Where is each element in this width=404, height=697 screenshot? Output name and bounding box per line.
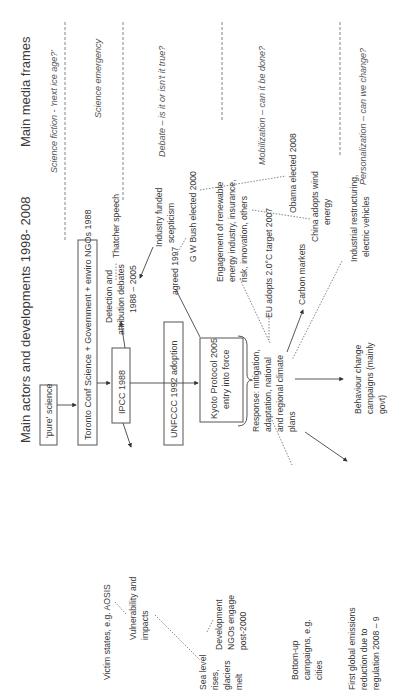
frame-science-emergency: Science emergency [93,38,103,118]
sea-level-label: Sea level rises, glaciers melt [198,655,244,690]
svg-text:Industrial restructuring,: Industrial restructuring, [349,175,359,262]
eu-target-label: EU adopts 2.0°C target 2007 [264,208,274,318]
unfccc-label: UNFCCC 1992 adoption [169,340,179,438]
svg-text:plans: plans [287,411,297,432]
pure-science-label: 'pure' science [44,384,54,438]
detection-label: Detection and attribution debates 1988 –… [104,264,138,335]
bottom-up-label: Bottom-up campaigns, e.g. cities [290,619,324,680]
svg-text:post-2000: post-2000 [238,612,248,650]
behaviour-label: Behaviour change campaigns (mainly govt) [353,342,387,414]
svg-text:Response: mitigation,: Response: mitigation, [251,349,261,432]
svg-text:glaciers: glaciers [222,660,232,690]
industry-to-detection-arrow [140,247,153,278]
sealevel-development-link [207,620,213,632]
svg-text:scepticism: scepticism [166,203,176,243]
svg-text:China adopts wind: China adopts wind [310,171,320,242]
first-emissions-label: First global emissions reduction due to … [347,607,381,690]
svg-text:adaptation, national: adaptation, national [263,357,273,432]
svg-text:attribution debates: attribution debates [116,264,126,335]
svg-text:Engagement of renewable: Engagement of renewable [215,181,225,282]
carbon-markets-label: Carbon markets [297,244,307,305]
svg-text:cities: cities [314,660,324,680]
engagement-label: Engagement of renewable energy industry,… [215,179,249,282]
toronto-label: Toronto Conf Science + Government + envi… [83,209,93,440]
frame-debate: Debate – is it or isn't it true? [157,46,167,157]
vulnerability-label: Vulnerability and impacts [128,577,150,640]
svg-text:Sea level: Sea level [198,655,208,690]
climate-media-diagram: Main media frames Main actors and develo… [0,0,404,697]
agreed-label: agreed 1997 [170,247,180,295]
obama-label: Obama elected 2008 [288,133,298,213]
kyoto-label-line2: entry into force [221,349,231,409]
svg-text:energy: energy [322,198,332,225]
actors-title: Main actors and developments 1998- 2008 [18,197,33,443]
svg-text:Development: Development [214,599,224,650]
bush-label: G W Bush elected 2000 [188,171,198,262]
response-to-carbon-arrow [287,310,303,352]
frame-mobilization: Mobilization – can it be done? [257,46,267,165]
svg-text:First global emissions: First global emissions [347,607,357,690]
svg-text:Behaviour change: Behaviour change [353,345,363,414]
development-ngos-label: Development NGOs engage post-2000 [214,595,248,650]
vulnerability-sealevel-link [155,615,200,660]
industrial-label: Industrial restructuring, electric vehic… [349,175,371,262]
svg-text:reduction due to: reduction due to [359,628,369,690]
svg-text:NGOs engage: NGOs engage [226,595,236,650]
victim-states-label: Victim states, e.g. AOSIS [102,584,112,680]
svg-text:Detection and: Detection and [104,270,114,323]
svg-text:Vulnerability and: Vulnerability and [128,577,138,640]
svg-text:Industry funded: Industry funded [154,188,164,247]
svg-text:electric vehicles: electric vehicles [361,196,371,257]
svg-text:1988 – 2005: 1988 – 2005 [128,265,138,313]
engagement-china-link [252,210,310,219]
ipcc-label: IPCC 1988 [117,370,127,414]
thatcher-label: Thatcher speech [111,194,121,258]
svg-text:campaigns (mainly: campaigns (mainly [365,342,375,414]
svg-text:rises,: rises, [210,669,220,690]
china-label: China adopts wind energy [310,171,332,242]
bush-obama-link [200,176,286,190]
response-label: Response: mitigation, adaptation, nation… [251,349,297,432]
svg-text:regulation 2008 – 9: regulation 2008 – 9 [371,616,381,690]
media-frames-title: Main media frames [18,36,33,147]
frame-science-fiction: Science fiction - 'next ice age?' [49,50,59,173]
kyoto-label-line1: Kyoto Protocol 2005 [209,338,219,419]
svg-text:govt): govt) [377,395,387,414]
svg-text:melt: melt [234,673,244,690]
ipcc-to-vulnerability-arrow [123,423,131,447]
response-to-first-arrow [305,432,347,461]
svg-text:risk, innovation, others: risk, innovation, others [239,196,249,282]
svg-text:impacts: impacts [140,610,150,640]
frame-personalization: Personalization – can we change? [358,48,368,185]
svg-text:energy industry, insurance,: energy industry, insurance, [227,179,237,282]
svg-text:Bottom-up: Bottom-up [290,640,300,680]
victim-vulnerability-link [115,602,127,615]
svg-text:campaigns, e.g.: campaigns, e.g. [302,619,312,680]
industry-label: Industry funded scepticism [154,188,176,247]
svg-text:and regional climate: and regional climate [275,355,285,432]
